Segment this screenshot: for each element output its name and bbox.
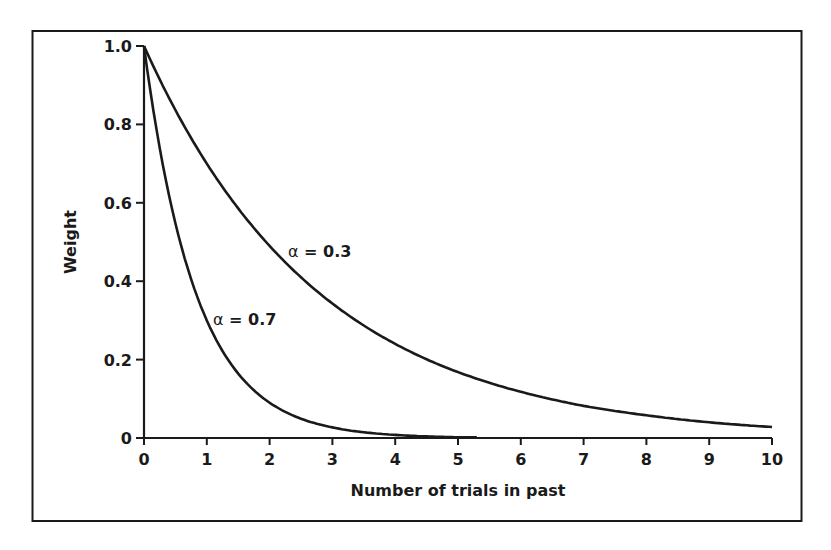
y-tick-label: 1.0 <box>104 37 132 56</box>
x-tick-label: 0 <box>138 450 149 469</box>
x-tick-label: 10 <box>761 450 783 469</box>
annotation-value: = 0.3 <box>299 242 352 261</box>
y-tick-label: 0.4 <box>104 272 132 291</box>
x-tick-label: 8 <box>641 450 652 469</box>
x-tick-label: 3 <box>327 450 338 469</box>
axes: 01234567891000.20.40.60.81.0 <box>104 37 783 469</box>
series-lines <box>144 46 772 437</box>
y-tick-label: 0.6 <box>104 194 132 213</box>
series-line-alpha-0-3 <box>144 46 772 427</box>
x-tick-label: 1 <box>201 450 212 469</box>
x-tick-label: 6 <box>515 450 526 469</box>
weight-decay-chart: 01234567891000.20.40.60.81.0 Number of t… <box>0 0 831 550</box>
alpha-symbol: α <box>213 310 224 329</box>
x-tick-label: 5 <box>452 450 463 469</box>
annotation-alpha-0-3: α = 0.3 <box>288 242 351 261</box>
y-tick-label: 0.8 <box>104 115 132 134</box>
chart-frame <box>33 31 802 521</box>
y-axis-title: Weight <box>61 210 80 274</box>
x-tick-label: 9 <box>704 450 715 469</box>
labels: Number of trials in past Weight α = 0.3 … <box>61 210 566 500</box>
y-tick-label: 0 <box>121 429 132 448</box>
x-axis-title: Number of trials in past <box>350 481 565 500</box>
annotation-alpha-0-7: α = 0.7 <box>213 310 276 329</box>
alpha-symbol: α <box>288 242 299 261</box>
annotation-value: = 0.7 <box>224 310 277 329</box>
x-tick-label: 2 <box>264 450 275 469</box>
x-tick-label: 7 <box>578 450 589 469</box>
y-tick-label: 0.2 <box>104 351 132 370</box>
x-tick-label: 4 <box>390 450 401 469</box>
